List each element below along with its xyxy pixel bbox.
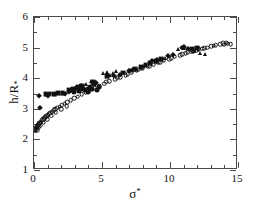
data-point-triangle-fill xyxy=(84,82,88,86)
data-point-square-fill xyxy=(133,67,138,72)
data-point-triangle-fill xyxy=(198,51,202,55)
data-point-circle-open xyxy=(104,80,109,85)
data-point-circle-open xyxy=(211,43,216,48)
y-tick-label: 4 xyxy=(15,72,28,83)
x-tick-label: 10 xyxy=(164,173,175,184)
y-tick-label: 2 xyxy=(15,133,28,144)
y-tick-major xyxy=(34,170,40,171)
y-axis-title: h/R* xyxy=(6,80,22,103)
data-point-circle-open xyxy=(202,46,207,51)
y-tick-label: 6 xyxy=(15,11,28,22)
figure-container: h/R* σ* 051015 123456 xyxy=(0,0,254,209)
data-point-circle-open xyxy=(49,113,54,118)
y-tick-major xyxy=(230,170,236,171)
data-point-triangle-fill xyxy=(203,52,207,56)
x-tick-major xyxy=(238,162,239,168)
data-point-circle-fill xyxy=(76,89,81,94)
data-point-circle-fill xyxy=(89,87,94,92)
data-point-square-fill xyxy=(153,59,158,64)
data-point-circle-open xyxy=(64,104,69,109)
data-point-triangle-fill xyxy=(114,69,118,73)
x-tick-major xyxy=(238,17,239,23)
data-point-triangle-fill xyxy=(182,46,186,50)
y-tick-label: 5 xyxy=(15,41,28,52)
data-point-square-fill xyxy=(60,90,65,95)
data-point-circle-open xyxy=(228,42,233,47)
data-point-triangle-fill xyxy=(192,49,196,53)
data-point-triangle-fill xyxy=(163,56,167,60)
data-point-triangle-fill xyxy=(89,79,93,83)
x-tick-label: 0 xyxy=(30,173,36,184)
data-point-layer xyxy=(34,17,236,168)
data-point-diamond-fill xyxy=(36,93,42,99)
x-axis-title-text: σ xyxy=(129,186,136,201)
data-point-circle-open xyxy=(59,107,64,112)
plot-frame xyxy=(33,16,237,169)
data-point-circle-open xyxy=(180,52,185,57)
x-tick-label: 5 xyxy=(98,173,104,184)
x-axis-title: σ* xyxy=(129,186,141,202)
data-point-triangle-fill xyxy=(141,64,145,68)
y-axis-title-text: h/R xyxy=(6,85,21,104)
data-point-triangle-fill xyxy=(120,71,124,75)
data-point-circle-open xyxy=(224,40,229,45)
data-point-square-fill xyxy=(148,60,153,65)
x-tick-label: 15 xyxy=(232,173,243,184)
data-point-triangle-fill xyxy=(176,47,180,51)
data-point-diamond-fill xyxy=(37,105,43,111)
data-point-circle-open xyxy=(53,110,58,115)
y-tick-label: 3 xyxy=(15,102,28,113)
x-axis-title-superscript: * xyxy=(136,186,141,196)
y-tick-label: 1 xyxy=(15,164,28,175)
data-point-circle-fill xyxy=(96,85,101,90)
